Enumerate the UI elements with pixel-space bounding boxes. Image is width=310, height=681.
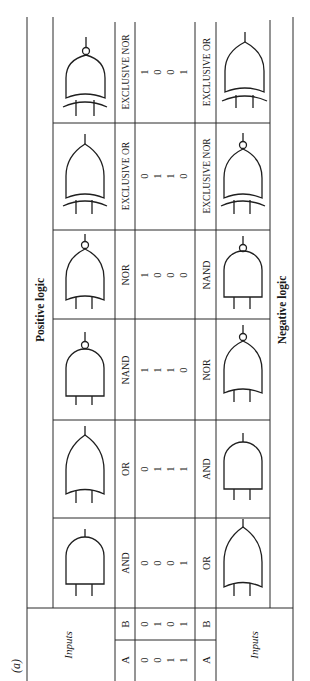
column-nor: NOR NAND 1 0 0 0	[66, 234, 262, 309]
negative-gate-name: OR	[201, 556, 212, 570]
column-or: OR AND 0 1 1 1	[66, 426, 262, 503]
xor-gate-icon	[222, 32, 267, 108]
nor-gate-icon	[224, 325, 262, 402]
svg-text:0: 0	[178, 173, 189, 178]
svg-text:0: 0	[178, 367, 189, 372]
svg-text:1: 1	[178, 621, 189, 626]
svg-text:0: 0	[178, 272, 189, 277]
and-gate-icon	[224, 433, 262, 500]
positive-gate-name: OR	[120, 462, 131, 476]
svg-text:0: 0	[165, 69, 176, 74]
svg-text:0: 0	[152, 272, 163, 277]
input-b-values: 0 1 0 1	[139, 621, 189, 626]
neg-input-header-a: A	[200, 656, 212, 664]
svg-text:0: 0	[139, 560, 150, 565]
column-nand: NAND NOR 1 1 1 0	[66, 325, 262, 405]
positive-gate-name: NAND	[120, 356, 131, 385]
inputs-label-bottom: Inputs	[248, 631, 260, 660]
negative-gate-name: NOR	[201, 359, 212, 380]
figure-label: (a)	[9, 659, 23, 673]
svg-text:1: 1	[152, 367, 163, 372]
svg-text:0: 0	[165, 272, 176, 277]
and-gate-icon	[66, 529, 104, 596]
positive-gate-name: NOR	[120, 264, 131, 285]
xnor-gate-icon	[63, 37, 107, 116]
svg-text:1: 1	[178, 560, 189, 565]
xnor-gate-icon	[221, 133, 265, 214]
logic-gate-table: (a) Positive logic Negative logic Inputs…	[0, 0, 310, 681]
nor-gate-icon	[66, 234, 104, 309]
svg-text:0: 0	[152, 560, 163, 565]
svg-text:1: 1	[165, 657, 176, 662]
input-header-b: B	[119, 620, 131, 627]
negative-logic-title: Negative logic	[276, 276, 289, 345]
input-header-a: A	[119, 656, 131, 664]
negative-gate-name: AND	[201, 458, 212, 480]
svg-text:1: 1	[165, 173, 176, 178]
svg-text:1: 1	[139, 272, 150, 277]
svg-text:1: 1	[165, 466, 176, 471]
svg-text:1: 1	[178, 466, 189, 471]
positive-logic-title: Positive logic	[34, 278, 47, 342]
column-xnor: EXCLUSIVE NOR EXCLUSIVE OR 1 0 0 1	[63, 32, 267, 116]
inputs-label-top: Inputs	[62, 631, 74, 660]
svg-text:1: 1	[178, 69, 189, 74]
xor-gate-icon	[63, 134, 107, 214]
nand-gate-icon	[224, 236, 262, 309]
svg-text:1: 1	[165, 367, 176, 372]
svg-text:0: 0	[165, 560, 176, 565]
column-and: AND OR 0 0 0 1	[66, 519, 262, 596]
negative-gate-name: EXCLUSIVE NOR	[202, 138, 212, 214]
svg-text:0: 0	[139, 657, 150, 662]
input-a-values: 0 0 1 1	[139, 657, 189, 662]
table-grid	[27, 17, 293, 681]
positive-gate-name: AND	[120, 552, 131, 574]
negative-gate-name: NAND	[201, 261, 212, 290]
svg-text:1: 1	[152, 466, 163, 471]
svg-text:0: 0	[139, 466, 150, 471]
svg-text:1: 1	[152, 621, 163, 626]
svg-text:0: 0	[139, 173, 150, 178]
svg-text:1: 1	[178, 657, 189, 662]
svg-text:0: 0	[139, 621, 150, 626]
svg-text:0: 0	[165, 621, 176, 626]
positive-gate-name: EXCLUSIVE OR	[121, 141, 131, 210]
svg-text:0: 0	[152, 69, 163, 74]
nand-gate-icon	[66, 332, 104, 405]
svg-text:1: 1	[139, 69, 150, 74]
svg-text:0: 0	[152, 657, 163, 662]
neg-input-header-b: B	[200, 620, 212, 627]
positive-gate-name: EXCLUSIVE NOR	[121, 34, 131, 110]
svg-text:1: 1	[152, 173, 163, 178]
column-xor: EXCLUSIVE OR EXCLUSIVE NOR 0 1 1 0	[63, 133, 265, 214]
or-gate-icon	[224, 519, 262, 596]
or-gate-icon	[66, 426, 104, 503]
svg-text:1: 1	[139, 367, 150, 372]
negative-gate-name: EXCLUSIVE OR	[202, 37, 212, 106]
